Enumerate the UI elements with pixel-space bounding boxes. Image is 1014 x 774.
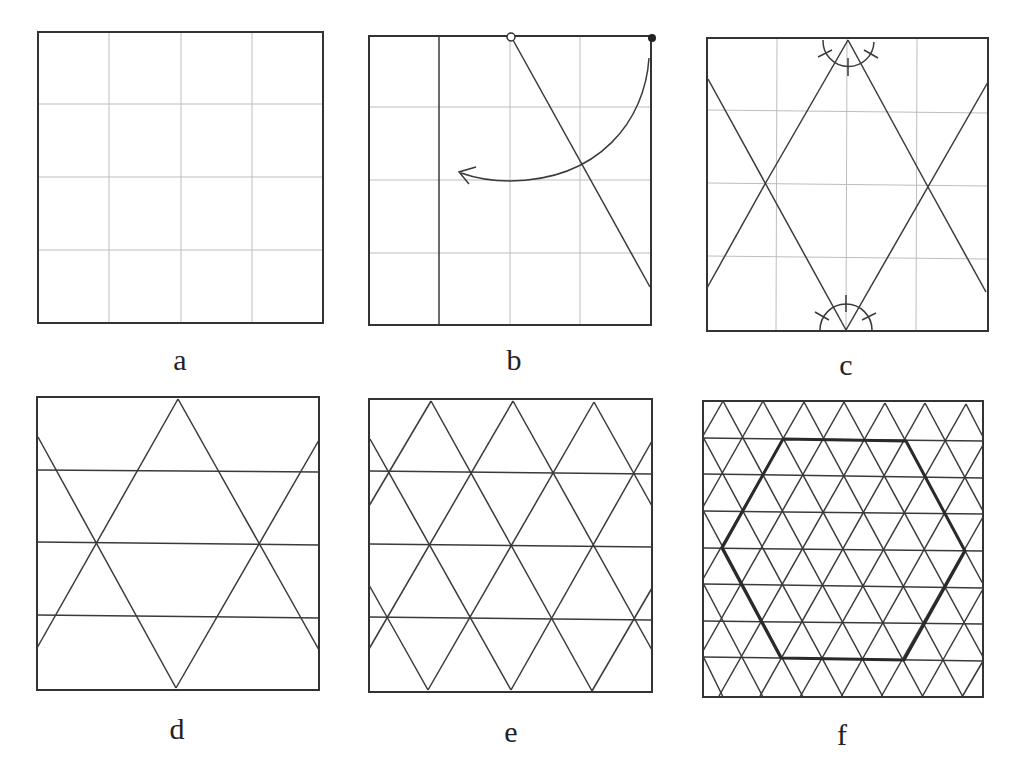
horizontal-crease bbox=[370, 471, 652, 474]
target-point-open-circle bbox=[507, 33, 515, 41]
crease-line bbox=[707, 184, 765, 288]
grid-lines bbox=[707, 38, 988, 331]
panel-label-e: e bbox=[491, 715, 531, 749]
panel-label-d: d bbox=[157, 712, 197, 746]
panel-c bbox=[707, 38, 988, 331]
corner-point-filled-dot bbox=[648, 34, 656, 42]
panel-e bbox=[369, 399, 652, 692]
panel-label-b: b bbox=[494, 343, 534, 377]
crease-line bbox=[178, 399, 319, 650]
horizontal-crease bbox=[37, 470, 319, 472]
horizontal-crease bbox=[369, 617, 652, 620]
origami-diagram bbox=[0, 0, 1014, 774]
horizontal-crease bbox=[37, 615, 319, 618]
crease-line bbox=[176, 440, 319, 688]
crease-line bbox=[38, 437, 176, 688]
angle-tick bbox=[864, 50, 878, 58]
crease-line bbox=[848, 40, 928, 187]
panel-label-f: f bbox=[822, 718, 862, 752]
panel-label-c: c bbox=[826, 348, 866, 382]
diagonal-crease bbox=[513, 40, 650, 287]
curved-fold-arrow bbox=[461, 58, 649, 181]
panel-b bbox=[369, 33, 656, 325]
panel-a bbox=[38, 32, 323, 323]
crease-line bbox=[37, 399, 178, 648]
crease-line bbox=[928, 187, 986, 292]
panel-f bbox=[703, 401, 983, 697]
grid-lines bbox=[38, 32, 323, 323]
panel-d bbox=[37, 397, 319, 690]
crease-line bbox=[765, 40, 848, 184]
panel-label-a: a bbox=[160, 343, 200, 377]
horizontal-crease bbox=[37, 542, 319, 545]
